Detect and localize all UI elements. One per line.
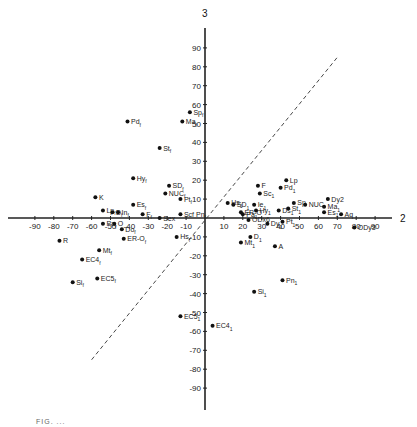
y-tick-label: -60 (189, 327, 201, 336)
point-label: A (278, 243, 283, 250)
x-tick-label: 50 (295, 222, 304, 231)
data-point: Spf (188, 109, 204, 119)
data-point: EC5f (95, 275, 116, 285)
x-tick-label: -20 (161, 222, 173, 231)
point-label: EC41 (216, 322, 233, 332)
point-label: Mtf (103, 247, 113, 257)
point-label: Si1 (258, 288, 267, 298)
data-point: A (273, 243, 284, 250)
point-label: ODy3 (358, 224, 376, 232)
axes: 23-90-80-70-60-50-40-30-20-1010203040506… (8, 8, 406, 410)
y-tick-label: 30 (192, 157, 201, 166)
x-tick-label: 60 (314, 222, 323, 231)
y-tick-label: -80 (189, 365, 201, 374)
y-tick-label: 70 (192, 82, 201, 91)
y-tick-label: 40 (192, 138, 201, 147)
data-point: Sex (158, 215, 176, 222)
point-label: Stf (163, 145, 172, 155)
data-point: Dof (120, 226, 136, 236)
data-points: PdfSpfMafStfHyfSDfNUCfPtfKLpfEsfInfDfFfS… (57, 109, 375, 332)
y-tick-label: 10 (192, 195, 201, 204)
figure-caption: FIG. ... (36, 418, 65, 425)
x-tick-label: -30 (143, 222, 155, 231)
point-label: O (118, 220, 124, 227)
data-point: ER-Of (122, 235, 147, 245)
data-point: Hyf (131, 175, 147, 185)
y-tick-label: 20 (192, 176, 201, 185)
y-axis-title: 3 (202, 8, 208, 19)
data-point: Maf (180, 118, 197, 128)
x-tick-label: -60 (86, 222, 98, 231)
point-label: EC5f (101, 275, 117, 285)
point-label: Pn1 (286, 277, 298, 287)
point-label: Esf (137, 201, 147, 211)
x-tick-label: -80 (48, 222, 60, 231)
point-label: Sc1 (263, 190, 274, 200)
point-label: Mt1 (244, 239, 255, 249)
data-point: Sif (71, 279, 85, 289)
x-tick-label: -70 (67, 222, 79, 231)
data-point: Esf (131, 201, 147, 211)
point-label: Hyf (137, 175, 148, 185)
point-label: Pd1 (284, 184, 296, 194)
point-label: Inf (122, 209, 130, 219)
data-point: EC41 (211, 322, 233, 332)
x-tick-label: -10 (180, 222, 192, 231)
data-point: F (256, 182, 266, 189)
y-tick-label: -20 (189, 252, 201, 261)
point-label: D1 (254, 233, 262, 243)
point-label: ER-Of (127, 235, 147, 245)
data-point: EC4f (80, 256, 101, 266)
data-point: Es1 (322, 209, 339, 219)
data-point: Si1 (252, 288, 267, 298)
data-point: Pn1 (280, 277, 297, 287)
y-tick-label: 90 (192, 44, 201, 53)
data-point: NUCf (163, 190, 186, 200)
y-tick-label: -30 (189, 271, 201, 280)
point-label: Spf (193, 109, 204, 119)
point-label: NUC (309, 201, 324, 208)
data-point: EC51 (178, 313, 200, 323)
data-point: Pd1 (279, 184, 296, 194)
point-label: K (99, 194, 104, 201)
data-point: K (93, 194, 104, 201)
point-label: Pt1 (286, 218, 296, 228)
x-axis-title: 2 (400, 213, 406, 224)
point-label: F (261, 182, 265, 189)
data-point: Stf (158, 145, 172, 155)
x-tick-label: 20 (238, 222, 247, 231)
y-tick-label: -40 (189, 290, 201, 299)
data-point: Mtf (97, 247, 112, 257)
x-tick-label: 70 (333, 222, 342, 231)
point-label: Sif (76, 279, 84, 289)
data-point: Pdf (126, 118, 142, 128)
x-tick-label: -90 (29, 222, 41, 231)
point-label: Sex (163, 215, 176, 222)
y-tick-label: 80 (192, 63, 201, 72)
data-point: R (57, 237, 68, 244)
point-label: Pdf (131, 118, 142, 128)
data-point: Ptf (178, 196, 192, 206)
data-point: Hsf (175, 233, 191, 243)
point-label: EC4f (86, 256, 102, 266)
scatter-plot: 23-90-80-70-60-50-40-30-20-1010203040506… (0, 0, 417, 427)
data-point: Sc1 (258, 190, 275, 200)
y-tick-label: -70 (189, 346, 201, 355)
data-point: Mt1 (239, 239, 255, 249)
y-tick-label: -90 (189, 384, 201, 393)
data-point: NUC (303, 201, 324, 208)
x-tick-label: 10 (219, 222, 228, 231)
point-label: Aq (345, 211, 354, 219)
point-label: R (63, 237, 68, 244)
